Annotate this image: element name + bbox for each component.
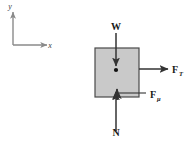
tension-force-label: F T	[172, 64, 184, 77]
figure-canvas: y x W F T F μ	[0, 0, 191, 146]
center-of-mass-dot	[114, 68, 118, 72]
friction-force-label-main: F	[150, 89, 156, 100]
tension-force-label-subscript: T	[179, 70, 184, 77]
x-axis-label: x	[47, 41, 52, 50]
weight-force-label: W	[111, 21, 121, 32]
friction-force-label-subscript: μ	[156, 95, 161, 102]
coordinate-axes: y x	[7, 2, 52, 50]
normal-force-label: N	[112, 127, 120, 138]
friction-force-label: F μ	[150, 89, 161, 102]
y-axis-label: y	[7, 2, 12, 11]
free-body-diagram-figure: y x W F T F μ	[0, 0, 191, 146]
tension-force-label-main: F	[172, 64, 178, 75]
